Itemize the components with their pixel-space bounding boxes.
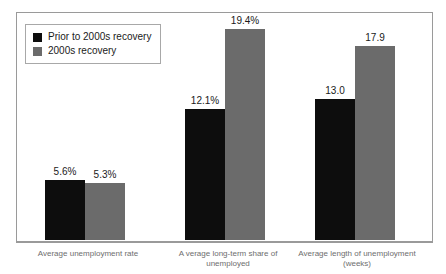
chart-frame: 5.6%5.3%12.1%19.4%13.017.9 Prior to 2000…: [16, 12, 433, 243]
bar-group-2: 13.017.9: [315, 12, 395, 241]
category-label-2: Average length of unemployment (weeks): [272, 249, 442, 269]
bar-value-label: 19.4%: [231, 15, 259, 26]
cropped-title-remnant: [60, 0, 360, 9]
bar-rect: [45, 180, 85, 241]
bar-value-label: 5.6%: [54, 166, 77, 177]
bar-value-label: 17.9: [365, 32, 384, 43]
legend-item-prior-to-2000s-recovery: Prior to 2000s recovery: [33, 30, 151, 44]
bar-rect: [85, 183, 125, 241]
bar-rect: [355, 46, 395, 241]
chart-legend: Prior to 2000s recovery 2000s recovery: [25, 24, 161, 64]
legend-square-gray-icon: [33, 47, 42, 56]
category-label-0: Average unemployment rate: [8, 249, 168, 259]
legend-label-series-b: 2000s recovery: [48, 45, 116, 57]
legend-square-black-icon: [33, 33, 42, 42]
bar-rect: [185, 109, 225, 241]
bar-rect: [225, 29, 265, 241]
legend-item-2000s-recovery: 2000s recovery: [33, 44, 151, 58]
bar-group-1: 12.1%19.4%: [185, 12, 265, 241]
bar-rect: [315, 99, 355, 241]
x-axis-baseline: [17, 241, 432, 242]
bar-value-label: 5.3%: [94, 169, 117, 180]
legend-label-series-a: Prior to 2000s recovery: [48, 31, 151, 43]
bar-value-label: 12.1%: [191, 95, 219, 106]
bar-value-label: 13.0: [325, 85, 344, 96]
